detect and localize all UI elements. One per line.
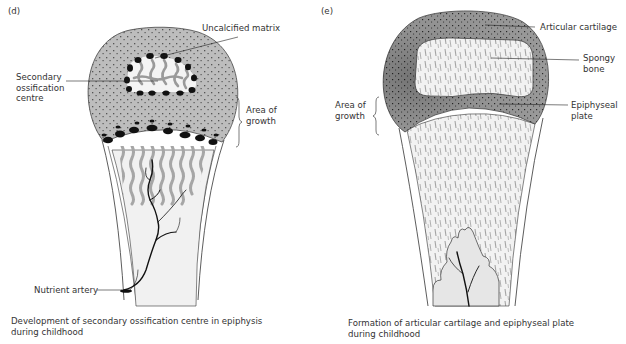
label-nutrient-artery: Nutrient artery [34,285,98,296]
caption-e: Formation of articular cartilage and epi… [348,318,574,340]
label-uncalcified-matrix: Uncalcified matrix [202,23,280,34]
label-secondary-ossification-centre: Secondary ossification centre [16,72,64,104]
panel-e: (e) Articular cartilage Spongy bone Area… [313,0,626,344]
label-area-of-growth-d: Area of growth [246,105,277,126]
caption-d: Development of secondary ossification ce… [11,316,262,338]
panel-d: (d) Uncalcified matrix Secondary ossific… [0,0,313,344]
label-articular-cartilage: Articular cartilage [540,22,617,33]
label-epiphyseal-plate: Epiphyseal plate [571,100,618,121]
panel-tag-d: (d) [8,6,20,16]
label-area-of-growth-e: Area of growth [335,100,366,121]
bone-diagram-e [313,0,626,344]
panel-tag-e: (e) [321,6,333,16]
label-spongy-bone: Spongy bone [583,53,615,74]
